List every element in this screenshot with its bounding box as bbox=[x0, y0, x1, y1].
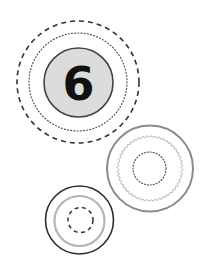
number-badge-group: 6 bbox=[17, 21, 139, 143]
dark-ring-group bbox=[46, 186, 114, 254]
outer-grey-ring bbox=[107, 126, 193, 212]
inner-dotted-ring bbox=[133, 152, 166, 185]
badge-number: 6 bbox=[62, 57, 94, 111]
grey-ring-group bbox=[107, 126, 193, 212]
light-grey-ring bbox=[55, 196, 105, 246]
wavy-ring bbox=[117, 136, 183, 202]
inner-dashed-ring bbox=[68, 208, 93, 233]
circles-diagram: 6 bbox=[0, 0, 206, 272]
